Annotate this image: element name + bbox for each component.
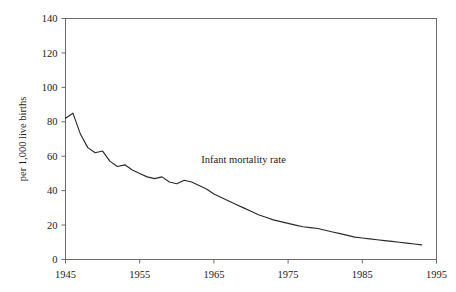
y-tick-label: 100	[42, 82, 58, 93]
x-axis-ticks	[66, 260, 437, 264]
y-tick-label: 40	[47, 185, 58, 196]
y-tick-label: 20	[47, 220, 58, 231]
y-tick-label: 120	[42, 48, 58, 59]
x-axis-tick-labels: 194519551965197519851995	[55, 269, 447, 280]
x-tick-label: 1955	[129, 269, 150, 280]
y-tick-label: 0	[52, 254, 57, 265]
chart-annotations: Infant mortality rate	[201, 154, 286, 165]
y-tick-label: 80	[47, 116, 58, 127]
x-tick-label: 1965	[203, 269, 224, 280]
plot-frame-group	[66, 19, 437, 260]
infant-mortality-line-chart: 020406080100120140 194519551965197519851…	[0, 0, 456, 292]
y-axis-ticks	[62, 19, 66, 260]
x-tick-label: 1945	[55, 269, 76, 280]
x-tick-label: 1985	[352, 269, 373, 280]
y-axis-tick-labels: 020406080100120140	[42, 13, 58, 265]
y-tick-label: 140	[42, 13, 58, 24]
data-series-group	[66, 113, 422, 245]
data-line-infant-mortality-rate	[66, 113, 422, 245]
chart-page: 020406080100120140 194519551965197519851…	[0, 0, 456, 292]
series-annotation-label: Infant mortality rate	[201, 154, 286, 165]
x-tick-label: 1995	[426, 269, 447, 280]
y-tick-label: 60	[47, 151, 58, 162]
plot-frame	[66, 19, 437, 260]
x-tick-label: 1975	[278, 269, 299, 280]
y-axis-title: per 1,000 live births	[17, 97, 28, 182]
